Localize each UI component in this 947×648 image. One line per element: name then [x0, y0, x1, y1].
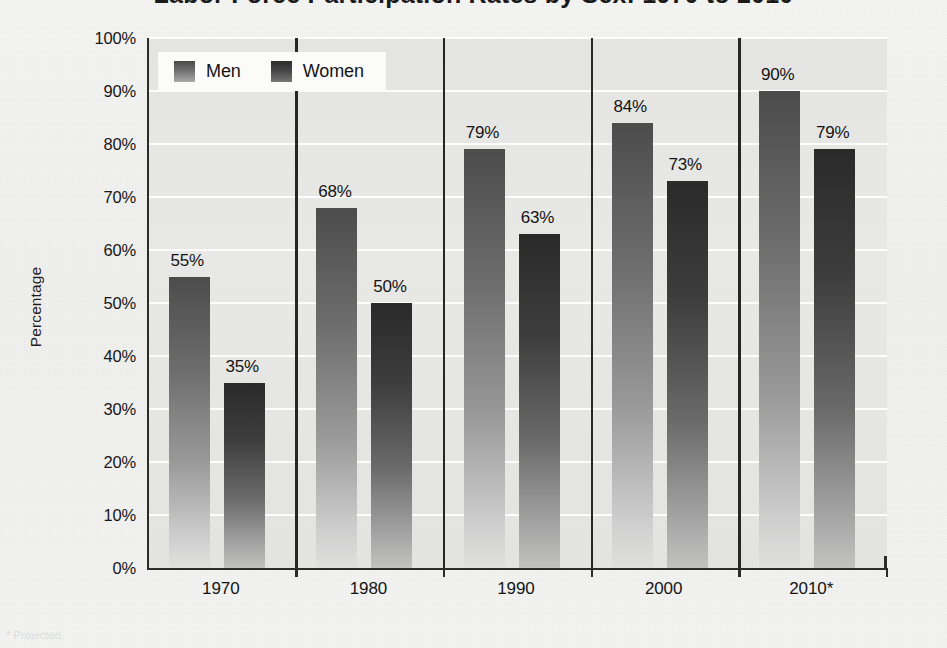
men-swatch-icon	[174, 61, 195, 82]
x-group-separator-1970	[295, 38, 298, 568]
y-axis-tick-labels: 0%10%20%30%40%50%60%70%80%90%100%	[72, 11, 136, 621]
chart-figure: Percentage 0%10%20%30%40%50%60%70%80%90%…	[0, 11, 947, 621]
chart-legend: Men Women	[158, 52, 386, 91]
bar-value-label-men-1980: 68%	[300, 182, 369, 202]
legend-label-men: Men	[206, 61, 241, 82]
y-tick-label-30: 30%	[72, 400, 136, 419]
bar-men-1980[interactable]	[316, 208, 357, 568]
y-tick-label-70: 70%	[72, 188, 136, 207]
x-axis-tick-1970	[295, 568, 298, 577]
chart-footnote: * Projected.	[6, 629, 64, 641]
x-axis-label-1990: 1990	[442, 579, 590, 599]
x-axis-tick-2000	[738, 568, 741, 577]
bar-women-1980[interactable]	[371, 303, 412, 568]
plot-area	[147, 38, 887, 570]
y-tick-label-90: 90%	[72, 82, 136, 101]
gridline-100	[149, 37, 887, 40]
bar-value-label-women-2000: 73%	[651, 155, 720, 175]
x-axis-tick-2010	[886, 568, 889, 577]
legend-item-men[interactable]: Men	[174, 61, 241, 82]
bar-value-label-men-2010: 90%	[743, 65, 812, 85]
bar-women-1970[interactable]	[224, 383, 265, 569]
bar-men-1970[interactable]	[169, 277, 210, 569]
bar-value-label-women-1990: 63%	[503, 208, 572, 228]
y-tick-label-100: 100%	[72, 29, 136, 48]
legend-label-women: Women	[303, 61, 364, 82]
y-axis-label: Percentage	[27, 227, 45, 387]
bar-value-label-men-1990: 79%	[448, 123, 517, 143]
x-axis-tick-1990	[591, 568, 594, 577]
bar-women-2010[interactable]	[814, 149, 855, 568]
chart-title-cropped: Labor Force Participation Rates by Sex: …	[0, 0, 947, 11]
y-tick-label-80: 80%	[72, 135, 136, 154]
bar-value-label-women-1980: 50%	[355, 277, 424, 297]
y-tick-label-0: 0%	[72, 559, 136, 578]
bar-value-label-women-1970: 35%	[208, 357, 277, 377]
bar-value-label-men-1970: 55%	[153, 251, 222, 271]
x-group-separator-2000	[738, 38, 741, 568]
legend-item-women[interactable]: Women	[271, 61, 364, 82]
x-group-separator-1980	[443, 38, 446, 568]
y-tick-label-10: 10%	[72, 506, 136, 525]
women-swatch-icon	[271, 61, 292, 82]
bar-men-2000[interactable]	[612, 123, 653, 568]
y-tick-label-20: 20%	[72, 453, 136, 472]
y-tick-label-50: 50%	[72, 294, 136, 313]
x-axis-label-2010: 2010*	[737, 579, 885, 599]
bar-men-2010[interactable]	[759, 91, 800, 568]
x-axis-label-1970: 1970	[147, 579, 295, 599]
x-axis-tick-1980	[443, 568, 446, 577]
bar-women-1990[interactable]	[519, 234, 560, 568]
bar-women-2000[interactable]	[667, 181, 708, 568]
y-tick-label-60: 60%	[72, 241, 136, 260]
x-axis-label-1980: 1980	[295, 579, 443, 599]
x-group-separator-1990	[591, 38, 594, 568]
bar-value-label-men-2000: 84%	[596, 97, 665, 117]
x-axis-label-2000: 2000	[590, 579, 738, 599]
y-tick-label-40: 40%	[72, 347, 136, 366]
chart-title-text: Labor Force Participation Rates by Sex: …	[154, 0, 794, 9]
bar-men-1990[interactable]	[464, 149, 505, 568]
x-axis-right-stub	[884, 556, 887, 569]
bar-value-label-women-2010: 79%	[798, 123, 867, 143]
